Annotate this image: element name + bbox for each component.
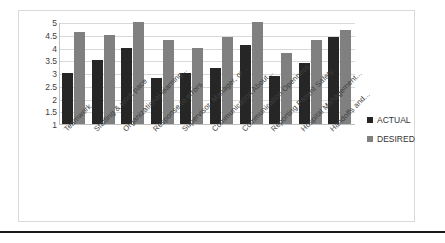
chart-container: 54.543.532.521.51 TeamworkStaffing & wor… bbox=[18, 10, 415, 222]
x-axis-category-labels: TeamworkStaffing & work paceOrganization… bbox=[59, 127, 359, 221]
y-axis-tick-label: 4.5 bbox=[37, 31, 57, 40]
y-axis-tick-label: 2.5 bbox=[37, 82, 57, 91]
y-axis: 54.543.532.521.51 bbox=[37, 19, 57, 129]
bar-actual bbox=[121, 48, 132, 125]
legend-swatch-icon bbox=[367, 117, 373, 123]
bar-actual bbox=[92, 60, 103, 124]
y-axis-tick-label: 5 bbox=[37, 19, 57, 28]
y-axis-tick-label: 1 bbox=[37, 121, 57, 130]
y-axis-tick-label: 1.5 bbox=[37, 108, 57, 117]
legend-label: ACTUAL bbox=[377, 115, 411, 125]
legend-label: DESIRED bbox=[377, 134, 415, 144]
y-axis-tick-label: 2 bbox=[37, 95, 57, 104]
legend-swatch-icon bbox=[367, 136, 373, 142]
legend-item[interactable]: DESIRED bbox=[367, 134, 429, 144]
bar-actual bbox=[328, 37, 339, 124]
y-axis-tick-label: 3 bbox=[37, 70, 57, 79]
bar-actual bbox=[240, 45, 251, 124]
legend-item[interactable]: ACTUAL bbox=[367, 115, 429, 125]
y-axis-tick-label: 4 bbox=[37, 44, 57, 53]
chart-legend: ACTUALDESIRED bbox=[367, 115, 429, 153]
y-axis-tick-label: 3.5 bbox=[37, 57, 57, 66]
page-bottom-rule bbox=[0, 231, 445, 233]
